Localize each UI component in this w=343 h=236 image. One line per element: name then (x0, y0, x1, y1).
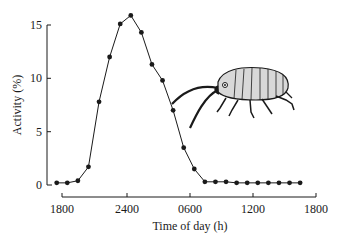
data-point-marker (160, 78, 165, 83)
y-tick-10: 10 (30, 71, 42, 85)
x-tick-1800-start: 1800 (50, 202, 74, 216)
data-point-marker (171, 108, 176, 113)
activity-chart: 0 5 10 15 Activity (%) 1800 2400 0600 12… (0, 0, 343, 236)
data-point-marker (255, 180, 260, 185)
x-tick-2400: 2400 (115, 202, 139, 216)
data-point-marker (234, 180, 239, 185)
data-point-marker (118, 22, 123, 27)
data-point-marker (245, 180, 250, 185)
x-tick-1800-end: 1800 (304, 202, 328, 216)
data-point-marker (287, 180, 292, 185)
y-axis: 0 5 10 15 Activity (%) (10, 18, 52, 192)
x-tick-0600: 0600 (178, 202, 202, 216)
y-tick-15: 15 (30, 18, 42, 32)
data-point-marker (97, 99, 102, 104)
x-axis: 1800 2400 0600 1200 1800 Time of day (h) (50, 193, 328, 233)
y-axis-title: Activity (%) (10, 75, 24, 135)
y-tick-5: 5 (36, 125, 42, 139)
data-point-marker (86, 164, 91, 169)
amphipod-illustration-icon (172, 68, 294, 128)
data-point-marker (107, 55, 112, 60)
data-point-marker (266, 180, 271, 185)
data-point-marker (181, 145, 186, 150)
data-point-marker (213, 179, 218, 184)
data-point-marker (202, 179, 207, 184)
data-point-marker (128, 13, 133, 18)
data-point-marker (277, 180, 282, 185)
data-point-marker (54, 180, 59, 185)
x-axis-title: Time of day (h) (152, 219, 227, 233)
data-point-marker (75, 178, 80, 183)
x-tick-1200: 1200 (241, 202, 265, 216)
y-tick-0: 0 (36, 178, 42, 192)
data-point-marker (224, 179, 229, 184)
data-point-marker (150, 62, 155, 67)
data-point-marker (65, 180, 70, 185)
data-point-marker (139, 30, 144, 35)
data-point-marker (192, 167, 197, 172)
data-point-marker (298, 180, 303, 185)
